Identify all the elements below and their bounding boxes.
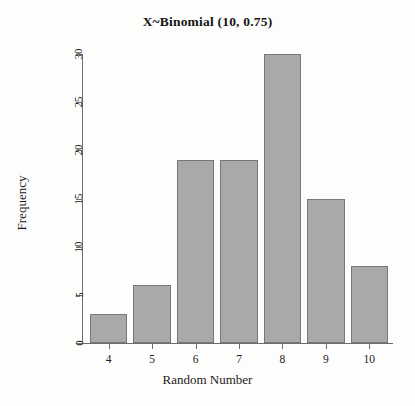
x-axis-title: Random Number bbox=[0, 372, 415, 388]
bar-4 bbox=[90, 314, 127, 343]
x-tick-label-9: 9 bbox=[323, 353, 329, 365]
y-axis-title: Frequency bbox=[12, 0, 32, 406]
x-tick-mark-9 bbox=[326, 344, 327, 349]
chart-title: X~Binomial (10, 0.75) bbox=[0, 14, 415, 30]
x-tick-mark-10 bbox=[369, 344, 370, 349]
bars-layer bbox=[82, 50, 394, 344]
bar-8 bbox=[264, 54, 301, 343]
x-tick-mark-8 bbox=[282, 344, 283, 349]
x-tick-label-10: 10 bbox=[364, 353, 376, 365]
bar-10 bbox=[351, 266, 388, 343]
x-tick-label-7: 7 bbox=[236, 353, 242, 365]
x-tick-label-8: 8 bbox=[280, 353, 286, 365]
bar-6 bbox=[177, 160, 214, 343]
x-tick-mark-4 bbox=[109, 344, 110, 349]
x-tick-mark-5 bbox=[152, 344, 153, 349]
x-tick-mark-7 bbox=[239, 344, 240, 349]
x-tick-label-6: 6 bbox=[193, 353, 199, 365]
histogram-chart: X~Binomial (10, 0.75) Frequency 05101520… bbox=[0, 0, 415, 406]
plot-area: 051015202530 45678910 bbox=[82, 50, 394, 344]
x-tick-mark-6 bbox=[196, 344, 197, 349]
x-tick-label-4: 4 bbox=[106, 353, 112, 365]
bar-9 bbox=[307, 199, 344, 344]
y-axis-title-label: Frequency bbox=[14, 176, 30, 231]
bar-5 bbox=[133, 285, 170, 343]
bar-7 bbox=[220, 160, 257, 343]
x-tick-label-5: 5 bbox=[149, 353, 155, 365]
